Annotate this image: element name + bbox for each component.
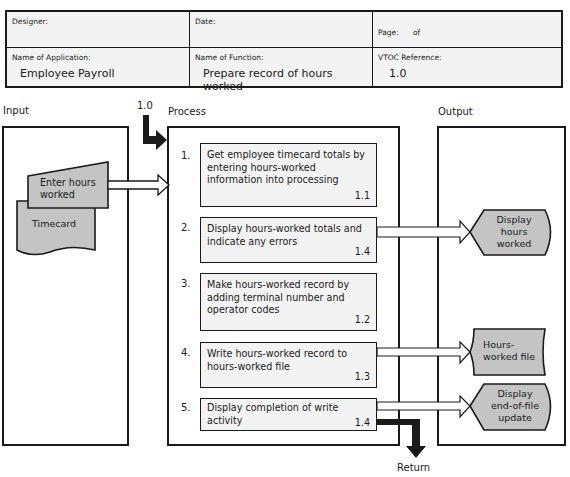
step-text: Display hours-worked totals and indicate…: [207, 223, 362, 247]
step-text: Display completion of write activity: [207, 402, 338, 426]
step-text: Make hours-worked record by adding termi…: [207, 279, 349, 315]
step-number: 5.: [181, 402, 191, 413]
process-step-3: Make hours-worked record by adding termi…: [200, 273, 377, 331]
process-step-2: Display hours-worked totals and indicate…: [200, 217, 377, 263]
step-number: 4.: [181, 347, 191, 358]
step5-output-arrow: [377, 396, 470, 417]
step-number: 3.: [181, 278, 191, 289]
step-ref: 1.1: [355, 190, 370, 203]
step2-output-arrow: [377, 221, 470, 243]
step-ref: 1.2: [355, 314, 370, 327]
display-end-of-file-label: Display end-of-file update: [487, 388, 543, 424]
step-number: 1.: [181, 150, 191, 161]
process-step-4: Write hours-worked record to hours-worke…: [200, 342, 377, 388]
input-to-process-arrow: [108, 175, 169, 195]
step-ref: 1.4: [355, 417, 370, 430]
step4-output-arrow: [377, 342, 470, 363]
step-text: Get employee timecard totals by entering…: [207, 149, 365, 185]
entry-arrow: [143, 115, 167, 150]
hours-worked-file-label: Hours-worked file: [483, 339, 535, 363]
step-number: 2.: [181, 222, 191, 233]
process-step-5: Display completion of write activity 1.4: [200, 398, 377, 431]
process-step-1: Get employee timecard totals by entering…: [200, 143, 377, 207]
return-arrow: [377, 419, 426, 458]
step-ref: 1.3: [355, 371, 370, 384]
step-text: Write hours-worked record to hours-worke…: [207, 348, 347, 372]
return-label: Return: [397, 462, 430, 473]
timecard-label: Timecard: [32, 218, 92, 230]
step-ref: 1.4: [355, 246, 370, 259]
enter-hours-worked-label: Enter hours worked: [40, 177, 100, 201]
display-hours-worked-label: Display hours worked: [490, 214, 538, 250]
